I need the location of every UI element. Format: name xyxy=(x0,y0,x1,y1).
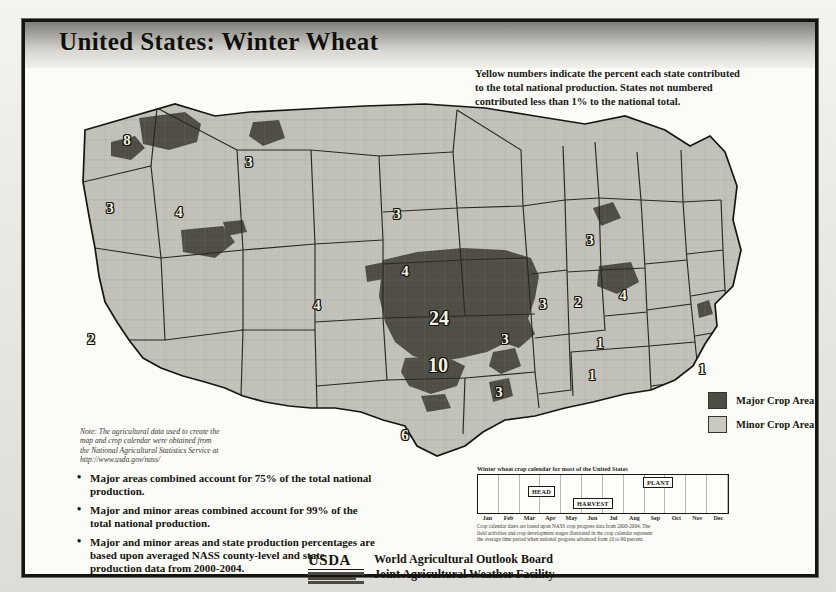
source-note-line: Note: The agricultural data used to crea… xyxy=(80,427,265,436)
poster-frame: United States: Winter Wheat Yellow numbe… xyxy=(22,19,818,577)
state-percent-IL: 3 xyxy=(539,297,547,312)
crop-calendar-footnote: Crop calendar dates are based upon NASS … xyxy=(477,523,729,543)
usda-footer: USDA World Agricultural Outlook Board Jo… xyxy=(308,552,555,586)
state-percent-TX: 6 xyxy=(401,428,409,443)
calendar-month: Oct xyxy=(666,515,687,521)
calendar-stage-harvest: HARVEST xyxy=(573,498,613,509)
calendar-month: Sep xyxy=(645,515,666,521)
list-item: Major areas combined account for 75% of … xyxy=(75,472,375,499)
major-crop-swatch-icon xyxy=(708,392,727,409)
state-percent-MO: 3 xyxy=(501,332,509,347)
calendar-stage-plant: PLANT xyxy=(643,477,673,488)
state-percent-AR: 3 xyxy=(495,385,503,400)
state-percent-ID: 4 xyxy=(175,205,183,220)
source-note: Note: The agricultural data used to crea… xyxy=(80,427,265,465)
legend-label-minor: Minor Crop Area xyxy=(736,419,814,430)
poster-root: United States: Winter Wheat Yellow numbe… xyxy=(0,0,836,592)
state-percent-SD: 3 xyxy=(393,207,401,222)
calendar-footnote-line: Crop calendar dates are based upon NASS … xyxy=(477,523,729,530)
state-percent-KS: 24 xyxy=(429,308,449,328)
usda-facility-line: Joint Agricultural Weather Facility xyxy=(374,567,555,582)
usda-board-line: World Agricultural Outlook Board xyxy=(374,552,555,567)
source-note-line: the National Agricultural Statistics Ser… xyxy=(80,446,265,455)
calendar-footnote-line: the average time period when national pr… xyxy=(477,536,729,543)
state-percent-MI: 3 xyxy=(586,233,594,248)
calendar-month: Feb xyxy=(498,515,519,521)
usda-logo-icon: USDA xyxy=(308,552,364,586)
state-percent-TN: 1 xyxy=(588,368,596,383)
calendar-month: Apr xyxy=(540,515,561,521)
state-percent-CO: 4 xyxy=(313,298,321,313)
us-winter-wheat-map: 8 3 2 4 3 3 4 4 24 10 6 3 3 3 2 4 3 1 1 … xyxy=(65,90,765,470)
calendar-month-axis: Jan Feb Mar Apr May Jun Jul Aug Sep Oct … xyxy=(477,515,729,521)
source-note-url[interactable]: http://www.usda.gov/nass/ xyxy=(80,455,265,464)
list-item: Major and minor areas combined account f… xyxy=(75,504,375,531)
title-band: United States: Winter Wheat xyxy=(25,22,815,68)
calendar-col xyxy=(686,475,707,513)
calendar-col xyxy=(499,475,520,513)
calendar-col xyxy=(707,475,728,513)
page-title: United States: Winter Wheat xyxy=(59,28,378,56)
calendar-month: Mar xyxy=(519,515,540,521)
crop-calendar: Winter wheat crop calendar for most of t… xyxy=(477,465,729,543)
calendar-month: Aug xyxy=(624,515,645,521)
crop-calendar-caption: Winter wheat crop calendar for most of t… xyxy=(477,465,729,472)
state-percent-OH: 4 xyxy=(619,288,627,303)
calendar-month: May xyxy=(561,515,582,521)
usda-agency-lines: World Agricultural Outlook Board Joint A… xyxy=(374,552,555,582)
us-map-svg xyxy=(65,90,765,470)
state-percent-IN: 2 xyxy=(574,295,582,310)
usda-wordmark: USDA xyxy=(308,553,364,570)
legend-item-minor: Minor Crop Area xyxy=(708,416,826,433)
usda-logo-bars xyxy=(308,572,364,584)
calendar-month: Jul xyxy=(603,515,624,521)
calendar-month: Nov xyxy=(687,515,708,521)
legend-label-major: Major Crop Area xyxy=(736,395,814,406)
yellow-number-note-line: Yellow numbers indicate the percent each… xyxy=(475,67,805,81)
state-percent-KY: 1 xyxy=(596,336,604,351)
state-percent-OR: 3 xyxy=(106,201,114,216)
calendar-col xyxy=(478,475,499,513)
minor-crop-swatch-icon xyxy=(708,416,727,433)
state-percent-NC: 1 xyxy=(698,362,706,377)
state-percent-MT: 3 xyxy=(245,155,253,170)
calendar-month: Jun xyxy=(582,515,603,521)
source-note-line: map and crop calendar were obtained from xyxy=(80,436,265,445)
state-percent-OK: 10 xyxy=(428,355,448,375)
calendar-stage-head: HEAD xyxy=(528,486,555,497)
state-percent-WA: 8 xyxy=(123,133,131,148)
legend-item-major: Major Crop Area xyxy=(708,392,826,409)
calendar-col xyxy=(624,475,645,513)
calendar-month: Jan xyxy=(477,515,498,521)
map-legend: Major Crop Area Minor Crop Area xyxy=(708,392,826,440)
calendar-month: Dec xyxy=(708,515,729,521)
calendar-footnote-line: field activities and crop development st… xyxy=(477,530,729,537)
state-percent-CA: 2 xyxy=(87,332,95,347)
state-percent-NE: 4 xyxy=(401,264,409,279)
crop-calendar-grid: HEAD HARVEST PLANT xyxy=(477,474,729,514)
